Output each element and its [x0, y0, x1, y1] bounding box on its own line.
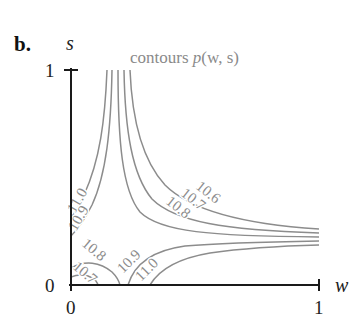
title-function: p [192, 48, 202, 67]
x-axis-label: w [335, 274, 349, 296]
contour-upper-right-107 [124, 70, 319, 233]
y-tick-label-0: 0 [45, 275, 55, 296]
y-axis-label: s [66, 32, 74, 54]
contour-lower-middle-110 [150, 245, 319, 285]
chart-title: contours p(w, s) [130, 48, 239, 67]
contour-upper-right-108 [118, 70, 319, 237]
panel-label: b. [14, 32, 31, 56]
title-args: (w, s) [201, 48, 239, 67]
title-prefix: contours [130, 48, 193, 67]
contour-plot: b. s contours p(w, s) 10.6 10.7 10.8 11. [0, 0, 364, 332]
contour-figure: b. s contours p(w, s) 10.6 10.7 10.8 11. [0, 0, 364, 332]
x-tick-label-1: 1 [314, 297, 324, 318]
contour-label-107-lower: 10.7 [70, 258, 101, 287]
x-tick-label-0: 0 [66, 297, 76, 318]
y-tick-label-1: 1 [45, 60, 55, 81]
